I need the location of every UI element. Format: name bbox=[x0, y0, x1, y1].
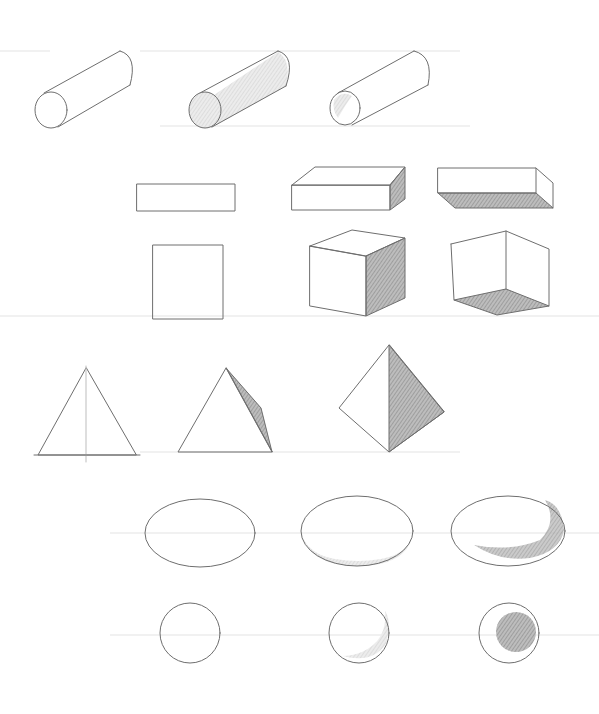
row-pyramids bbox=[34, 345, 444, 462]
row-boxes bbox=[137, 167, 553, 211]
box-shaded-bottom bbox=[438, 168, 553, 208]
cylinder-hollow bbox=[330, 51, 429, 125]
sphere-crescent bbox=[329, 603, 389, 663]
ellipsoid-crescent bbox=[451, 496, 565, 566]
box-shaded-side bbox=[292, 167, 405, 210]
triangle-flat bbox=[34, 366, 140, 462]
circle-outline bbox=[160, 603, 220, 663]
rectangle-flat bbox=[137, 184, 235, 211]
cylinder-shaded bbox=[189, 51, 290, 128]
cube-shaded-side bbox=[310, 230, 405, 316]
row-spheres bbox=[160, 603, 539, 663]
pyramid-shaded bbox=[178, 368, 272, 452]
tetrahedron-shaded bbox=[339, 345, 444, 452]
row-cylinders bbox=[35, 51, 429, 128]
row-ellipses bbox=[145, 496, 565, 567]
square-flat bbox=[153, 245, 223, 319]
sketch-canvas bbox=[0, 0, 599, 714]
disc-shaded-rim bbox=[301, 496, 413, 566]
cylinder-outline bbox=[35, 51, 132, 128]
cube-shaded-bottom bbox=[451, 231, 549, 315]
sphere-inner-circle bbox=[479, 603, 539, 663]
row-cubes bbox=[153, 230, 549, 319]
